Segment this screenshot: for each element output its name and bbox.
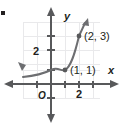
y-axis-arrow-up: [47, 7, 55, 16]
origin-label: O: [38, 90, 46, 101]
y-axis-label: y: [63, 10, 71, 22]
x-axis: [4, 80, 119, 88]
y-axis: [47, 7, 55, 123]
data-point-1-1: [63, 68, 68, 73]
y-tick-label-2: 2: [33, 45, 39, 57]
point-label-2-3: (2, 3): [84, 30, 110, 42]
data-point-2-3: [77, 34, 82, 39]
x-tick-label-2: 2: [76, 88, 82, 100]
chart-screenshot: y x 2 2 O (1, 1) (2, 3): [0, 0, 127, 127]
x-axis-label: x: [107, 64, 115, 76]
y-axis-arrow-down: [47, 114, 55, 123]
x-axis-arrow-left: [4, 80, 13, 88]
point-label-1-1: (1, 1): [70, 64, 96, 76]
edge-dot: [1, 11, 5, 15]
x-axis-arrow-right: [110, 80, 119, 88]
coordinate-plane-figure: y x 2 2 O (1, 1) (2, 3): [0, 0, 127, 127]
